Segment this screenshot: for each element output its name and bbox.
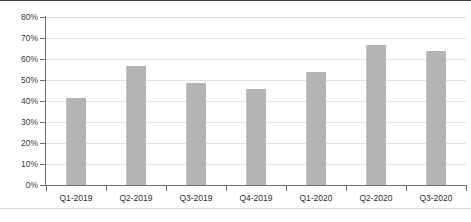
x-axis-category-label: Q4-2019 (226, 194, 286, 203)
x-axis-tick (466, 185, 467, 191)
x-axis-tick (226, 185, 227, 191)
x-axis-category-label: Q3-2019 (166, 194, 226, 203)
x-axis-tick (166, 185, 167, 191)
x-axis-category-label: Q3-2020 (406, 194, 466, 203)
x-axis-tick (406, 185, 407, 191)
x-axis: Q1-2019Q2-2019Q3-2019Q4-2019Q1-2020Q2-20… (0, 0, 471, 222)
x-axis-tick (106, 185, 107, 191)
x-axis-tick (46, 185, 47, 191)
x-axis-category-label: Q1-2019 (46, 194, 106, 203)
bar-chart: 0%10%20%30%40%50%60%70%80% Q1-2019Q2-201… (0, 0, 471, 222)
x-axis-tick (346, 185, 347, 191)
x-axis-category-label: Q1-2020 (286, 194, 346, 203)
x-axis-category-label: Q2-2019 (106, 194, 166, 203)
x-axis-tick (286, 185, 287, 191)
x-axis-category-label: Q2-2020 (346, 194, 406, 203)
